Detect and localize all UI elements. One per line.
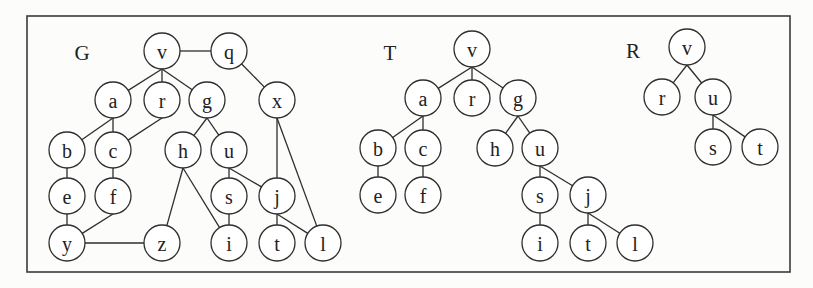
graph-figure: GvqargxbchuefsjyzitlTvargbchuefsjitlRvru…: [0, 0, 813, 288]
node-label: f: [110, 186, 117, 208]
edge-T-g-h: [506, 116, 518, 133]
edge-G-g-h: [194, 118, 207, 136]
node-G-y: y: [49, 225, 85, 261]
graph-label-G: G: [74, 41, 89, 65]
node-label: h: [490, 138, 500, 160]
node-T-c: c: [405, 130, 441, 166]
node-G-v: v: [144, 33, 180, 69]
node-G-j: j: [259, 178, 295, 214]
node-label: j: [273, 186, 280, 209]
graph-R: Rvrust: [626, 29, 778, 165]
node-T-s: s: [522, 177, 558, 213]
node-T-b: b: [360, 130, 396, 166]
node-label: s: [225, 186, 233, 208]
node-label: u: [535, 138, 545, 160]
node-G-i: i: [211, 225, 247, 261]
node-T-j: j: [570, 177, 606, 213]
node-R-t: t: [742, 129, 778, 165]
node-label: i: [537, 233, 543, 255]
edge-R-v-u: [687, 65, 702, 83]
node-label: a: [109, 90, 118, 112]
graph-G: Gvqargxbchuefsjyzitl: [49, 33, 341, 261]
node-label: h: [178, 140, 188, 162]
node-G-g: g: [189, 82, 225, 118]
node-label: v: [157, 41, 167, 63]
node-label: l: [320, 233, 326, 255]
edge-G-q-x: [241, 63, 264, 87]
node-label: b: [62, 140, 72, 162]
node-label: y: [62, 233, 72, 256]
node-T-h: h: [477, 130, 513, 166]
node-label: u: [224, 140, 234, 162]
node-label: f: [420, 185, 427, 207]
node-label: u: [708, 87, 718, 109]
node-label: z: [158, 233, 167, 255]
node-label: c: [419, 138, 428, 160]
node-G-h: h: [165, 132, 201, 168]
node-T-v: v: [454, 31, 490, 67]
node-R-r: r: [644, 79, 680, 115]
node-G-f: f: [95, 178, 131, 214]
node-label: j: [584, 185, 591, 208]
node-G-q: q: [211, 33, 247, 69]
node-G-a: a: [95, 82, 131, 118]
node-label: e: [63, 186, 72, 208]
node-label: q: [224, 41, 234, 64]
node-label: t: [585, 233, 591, 255]
node-label: c: [109, 140, 118, 162]
graphs-layer: GvqargxbchuefsjyzitlTvargbchuefsjitlRvru…: [49, 29, 778, 261]
node-T-i: i: [522, 225, 558, 261]
edge-G-f-y: [82, 214, 113, 233]
node-T-g: g: [500, 80, 536, 116]
graph-label-T: T: [384, 41, 397, 65]
node-R-u: u: [695, 79, 731, 115]
node-T-t: t: [570, 225, 606, 261]
node-label: t: [757, 137, 763, 159]
node-R-v: v: [669, 29, 705, 65]
node-label: e: [374, 185, 383, 207]
node-label: r: [659, 87, 666, 109]
node-G-z: z: [144, 225, 180, 261]
edge-T-g-u: [518, 116, 530, 133]
node-G-u: u: [211, 132, 247, 168]
node-G-e: e: [49, 178, 85, 214]
node-G-c: c: [95, 132, 131, 168]
node-T-l: l: [617, 225, 653, 261]
node-label: v: [467, 39, 477, 61]
node-G-b: b: [49, 132, 85, 168]
node-T-e: e: [360, 177, 396, 213]
node-label: r: [159, 90, 166, 112]
node-label: t: [274, 233, 280, 255]
edge-G-g-u: [207, 118, 219, 135]
edge-G-r-c: [128, 118, 162, 140]
node-label: s: [536, 185, 544, 207]
node-G-x: x: [259, 82, 295, 118]
node-label: i: [226, 233, 232, 255]
node-T-f: f: [405, 177, 441, 213]
node-label: a: [419, 88, 428, 110]
node-G-t: t: [259, 225, 295, 261]
node-label: s: [709, 137, 717, 159]
node-label: g: [202, 90, 212, 113]
edge-G-h-z: [167, 168, 183, 226]
node-T-u: u: [522, 130, 558, 166]
node-T-a: a: [405, 80, 441, 116]
node-label: l: [632, 233, 638, 255]
node-label: v: [682, 37, 692, 59]
edge-R-v-r: [673, 65, 687, 83]
node-label: r: [469, 88, 476, 110]
node-G-l: l: [305, 225, 341, 261]
node-label: b: [373, 138, 383, 160]
graph-T: Tvargbchuefsjitl: [360, 31, 653, 261]
node-G-r: r: [144, 82, 180, 118]
node-T-r: r: [454, 80, 490, 116]
node-label: x: [272, 90, 282, 112]
node-G-s: s: [211, 178, 247, 214]
node-R-s: s: [695, 129, 731, 165]
node-label: g: [513, 88, 523, 111]
graph-label-R: R: [626, 39, 640, 63]
